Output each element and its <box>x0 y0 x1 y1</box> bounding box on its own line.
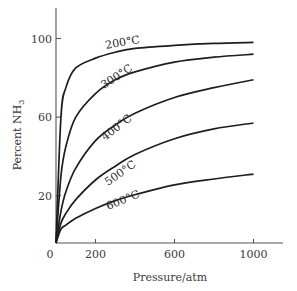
x-axis-label: Pressure/atm <box>133 271 208 284</box>
x-tick-label: 600 <box>164 248 185 261</box>
y-tick-label: 100 <box>31 33 52 46</box>
curve-600c <box>56 174 254 243</box>
curve-labels: 200°C300°C400°C500°C600°C <box>99 33 142 213</box>
chart: 020060010002060100 200°C300°C400°C500°C6… <box>0 0 297 291</box>
x-tick-label: 1000 <box>240 248 268 261</box>
y-tick-label: 20 <box>38 190 52 203</box>
curve-label: 300°C <box>99 62 135 92</box>
y-tick-label: 60 <box>38 111 52 124</box>
x-tick-label: 0 <box>47 248 54 261</box>
curve-label: 400°C <box>99 112 135 144</box>
curve-500c <box>56 123 254 243</box>
x-tick-label: 200 <box>85 248 106 261</box>
curve-300c <box>56 54 254 243</box>
curves <box>56 42 254 243</box>
curve-label: 600°C <box>104 188 141 213</box>
y-axis-label: Percent NH3 <box>11 100 26 171</box>
